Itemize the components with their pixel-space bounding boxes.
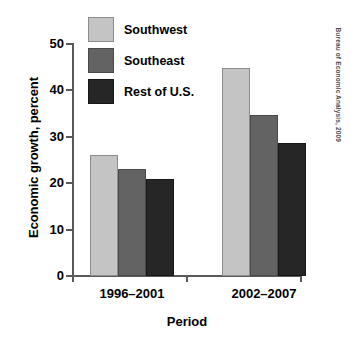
y-tick-mark <box>66 136 73 138</box>
y-tick-label: 40 <box>24 83 64 96</box>
x-category-label: 2002–2007 <box>204 286 324 301</box>
legend-label: Southeast <box>124 54 184 68</box>
source-credit: Bureau of Economic Analysis, 2009 <box>335 28 342 188</box>
legend-item: Rest of U.S. <box>88 76 194 107</box>
bar-southeast-1996-2001 <box>118 169 146 276</box>
bar-southwest-2002-2007 <box>222 68 250 276</box>
x-category-label: 1996–2001 <box>72 286 192 301</box>
y-tick-mark <box>66 89 73 91</box>
y-tick-mark <box>66 182 73 184</box>
bar-rest-of-u-s-1996-2001 <box>146 179 174 276</box>
x-tick-mark <box>186 275 188 282</box>
y-tick-label: 0 <box>24 269 64 282</box>
legend-label: Southwest <box>124 23 187 37</box>
y-tick-label: 30 <box>24 130 64 143</box>
legend-label: Rest of U.S. <box>124 85 194 99</box>
y-tick-mark <box>66 43 73 45</box>
x-axis-title: Period <box>72 314 302 329</box>
bar-chart-figure: Economic growth, percent 01020304050 199… <box>0 0 357 339</box>
legend-swatch-icon <box>88 48 114 73</box>
bar-southwest-1996-2001 <box>90 155 118 276</box>
y-tick-label: 20 <box>24 176 64 189</box>
y-tick-label: 50 <box>24 37 64 50</box>
x-tick-mark <box>72 275 74 282</box>
legend-item: Southeast <box>88 45 194 76</box>
y-tick-label: 10 <box>24 223 64 236</box>
legend-swatch-icon <box>88 79 114 104</box>
bar-rest-of-u-s-2002-2007 <box>278 143 306 276</box>
legend-swatch-icon <box>88 17 114 42</box>
y-axis-title: Economic growth, percent <box>26 43 41 273</box>
x-tick-mark <box>300 275 302 282</box>
legend: SouthwestSoutheastRest of U.S. <box>88 14 194 107</box>
legend-item: Southwest <box>88 14 194 45</box>
bar-southeast-2002-2007 <box>250 115 278 276</box>
y-tick-mark <box>66 229 73 231</box>
